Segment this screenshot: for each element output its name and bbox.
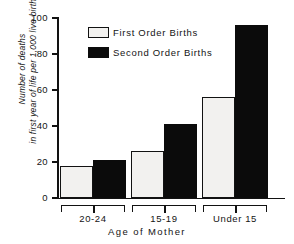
bar-20-24-first-order (60, 166, 93, 198)
category-label-3: Under 15 (195, 213, 275, 224)
bar-chart-figure: Number of deaths in first year of life p… (0, 0, 294, 244)
bar-20-24-second-order (93, 160, 126, 198)
category-label-2: 15-19 (124, 213, 204, 224)
bar-15-19-first-order (131, 151, 164, 198)
category-label-1: 20-24 (53, 213, 133, 224)
bar-under-15-first-order (202, 97, 235, 198)
category-bracket-3 (203, 205, 267, 212)
bracket-center-tick (164, 206, 166, 213)
category-bracket-1 (61, 205, 125, 212)
white-swatch-icon (88, 27, 109, 38)
bracket-center-tick (93, 206, 95, 213)
category-bracket-2 (132, 205, 196, 212)
bracket-center-tick (235, 206, 237, 213)
black-swatch-icon (88, 47, 109, 58)
bar-15-19-second-order (164, 124, 197, 198)
legend-label-second-order: Second Order Births (113, 46, 212, 59)
x-axis-title: Age of Mother (0, 226, 294, 237)
bar-under-15-second-order (235, 25, 268, 198)
legend-label-first-order: First Order Births (113, 26, 198, 39)
